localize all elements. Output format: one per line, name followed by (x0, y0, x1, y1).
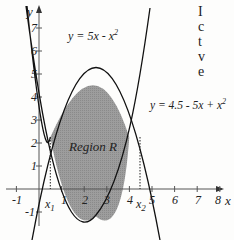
side-text-line: v (198, 49, 205, 64)
region-r-label: Region R (68, 139, 117, 154)
x2-label: x2 (135, 197, 146, 213)
lower-curve-label: y = 4.5 - 5x + x2 (149, 97, 226, 112)
side-text-line: e (198, 64, 205, 79)
x-axis-label: x (224, 193, 231, 208)
x1-label: x1 (44, 197, 55, 213)
truncated-side-text: I c t v e (198, 4, 205, 79)
side-text-line: I (198, 4, 205, 19)
upper-curve-label: y = 5x - x2 (67, 28, 118, 43)
side-text-line: c (198, 19, 205, 34)
side-text-line: t (198, 34, 205, 49)
y-axis-label: y (25, 4, 33, 19)
